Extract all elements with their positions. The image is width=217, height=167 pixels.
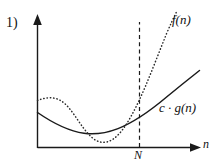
big-o-figure: 1) f(n) c · g(n) N n <box>0 0 217 167</box>
threshold-label-N: N <box>134 149 142 161</box>
curve-label-c-g-of-n: c · g(n) <box>159 101 196 114</box>
curve-label-f-of-n: f(n) <box>172 13 191 26</box>
horizontal-axis-arrowhead <box>190 143 201 152</box>
x-axis-label-n: n <box>203 138 209 150</box>
item-number-label: 1) <box>6 16 18 30</box>
curve-f-of-n <box>38 11 178 142</box>
vertical-axis-arrowhead <box>33 14 42 25</box>
